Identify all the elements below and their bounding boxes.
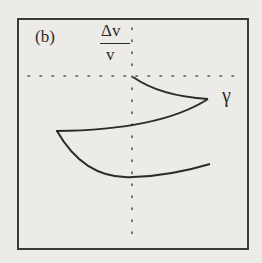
y-axis-label-denominator: v bbox=[106, 46, 115, 63]
y-axis-label-numerator: Δv bbox=[101, 22, 120, 39]
x-axis-label-gamma: γ bbox=[222, 84, 231, 107]
plot-frame bbox=[18, 19, 248, 249]
fraction-bar bbox=[100, 43, 130, 44]
curve-upper-top bbox=[133, 77, 208, 99]
panel-label: (b) bbox=[35, 27, 55, 47]
curve-lower bbox=[57, 131, 210, 177]
